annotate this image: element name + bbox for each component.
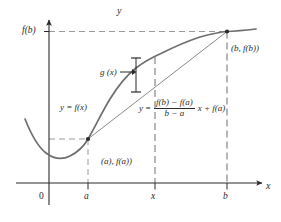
secant-equation-fraction: f(b) − f(a) b − a (154, 98, 195, 119)
x-axis-label: x (266, 181, 270, 191)
origin-label: 0 (39, 192, 44, 202)
x-tick-label-x: x (151, 192, 155, 202)
secant-equation-lhs: y (139, 104, 143, 113)
point-b-label: (b, f(b)) (231, 44, 259, 53)
point-a-marker (86, 137, 90, 141)
secant-equation-denominator: b − a (163, 109, 187, 119)
secant-equation-numerator: f(b) − f(a) (154, 98, 195, 108)
y-axis-label: y (117, 6, 121, 16)
x-tick-label-a: a (84, 192, 89, 202)
gap-bracket (131, 58, 141, 92)
x-tick-label-b: b (223, 192, 228, 202)
secant-equation: y = f(b) − f(a) b − a x + f(a) (139, 98, 225, 119)
secant-equation-equals: = (145, 104, 151, 113)
y-tick-label-fb: f(b) (22, 26, 36, 36)
gap-label: g (x) (100, 68, 117, 77)
secant-equation-tail: x + f(a) (198, 104, 226, 113)
figure-container: y x f(b) 0 a x b (a), f(a)) (b, f(b)) g … (0, 0, 281, 222)
curve-label: y = f(x) (60, 103, 87, 112)
point-b-marker (225, 29, 229, 33)
secant-line (88, 32, 227, 140)
point-a-label: (a), f(a)) (101, 157, 132, 166)
